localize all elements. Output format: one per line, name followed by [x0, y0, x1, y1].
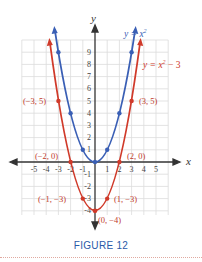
chart: x y -5 -4 -3 -2 -1 1 2 3 4 5 9 8 7 6 5 4… — [0, 0, 202, 262]
label-p2-0: (2, 0) — [127, 151, 146, 161]
x-axis-label: x — [185, 155, 191, 167]
svg-text:-4: -4 — [84, 206, 91, 215]
svg-text:-5: -5 — [31, 165, 38, 174]
svg-text:-3: -3 — [55, 165, 62, 174]
svg-text:5: 5 — [154, 165, 158, 174]
svg-text:3: 3 — [87, 121, 91, 130]
label-m2-0: (−2, 0) — [35, 151, 58, 161]
svg-text:7: 7 — [87, 72, 91, 81]
svg-text:4: 4 — [142, 165, 146, 174]
label-p1-m3: (1, −3) — [114, 194, 137, 204]
svg-text:8: 8 — [87, 60, 91, 69]
arrow-icon — [137, 38, 143, 46]
figure-caption: FIGURE 12 — [0, 240, 202, 251]
svg-text:6: 6 — [87, 84, 91, 93]
divider — [0, 257, 202, 258]
svg-text:1: 1 — [87, 145, 91, 154]
svg-text:5: 5 — [87, 97, 91, 106]
svg-text:-4: -4 — [43, 165, 50, 174]
label-p3-5: (3, 5) — [139, 96, 158, 106]
y-axis-label: y — [90, 12, 96, 24]
label-m1-m3: (−1, −3) — [38, 194, 66, 204]
svg-text:4: 4 — [87, 109, 91, 118]
svg-text:3: 3 — [130, 165, 134, 174]
legend-blue: y = x2 — [123, 28, 147, 39]
x-tick-labels: -5 -4 -3 -2 -1 1 2 3 4 5 — [31, 165, 158, 174]
label-0-m4: (0, −4) — [98, 215, 121, 225]
svg-text:2: 2 — [87, 133, 91, 142]
legend-red: y = x2 − 3 — [142, 59, 181, 70]
svg-text:-1: -1 — [84, 170, 91, 179]
arrow-icon — [52, 26, 58, 34]
arrow-icon — [47, 38, 53, 46]
svg-text:-2: -2 — [84, 182, 91, 191]
svg-text:1: 1 — [105, 165, 109, 174]
svg-text:9: 9 — [87, 48, 91, 57]
label-m3-5: (−3, 5) — [23, 96, 46, 106]
y-tick-labels: 9 8 7 6 5 4 3 2 1 -1 -2 -3 -4 — [84, 48, 91, 215]
